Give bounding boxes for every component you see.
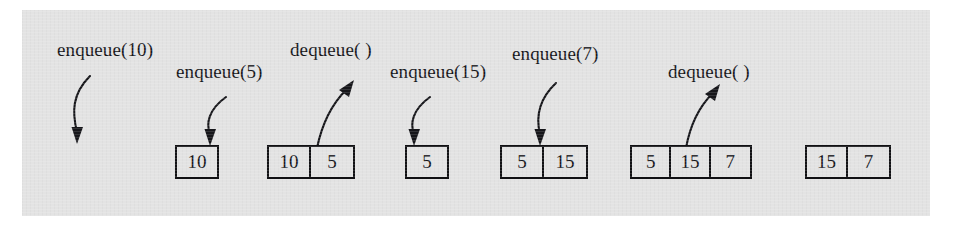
arrow-enqueue-15	[404, 94, 460, 152]
queue-state-3: 5	[405, 145, 449, 179]
queue-cell: 5	[311, 147, 353, 177]
queue-cell: 10	[269, 147, 311, 177]
arrow-enqueue-7	[528, 80, 584, 152]
queue-cell: 5	[632, 147, 671, 177]
queue-diagram-panel: enqueue(10) enqueue(5) dequeue( ) enqueu…	[22, 10, 930, 216]
queue-cell: 15	[671, 147, 710, 177]
queue-state-2: 10 5	[267, 145, 355, 179]
queue-cell: 15	[807, 147, 848, 177]
operation-label-enqueue-5: enqueue(5)	[176, 62, 262, 81]
operation-label-enqueue-10: enqueue(10)	[57, 40, 153, 59]
arrow-dequeue-2	[670, 70, 740, 152]
queue-state-4: 5 15	[500, 145, 588, 179]
arrow-enqueue-10	[62, 72, 132, 150]
operation-label-enqueue-15: enqueue(15)	[390, 62, 486, 81]
queue-cell: 7	[848, 147, 889, 177]
operation-label-dequeue-1: dequeue( )	[290, 40, 372, 59]
queue-state-6: 15 7	[805, 145, 891, 179]
queue-cell: 5	[502, 147, 544, 177]
operation-label-enqueue-7: enqueue(7)	[512, 44, 598, 63]
queue-cell: 7	[711, 147, 750, 177]
arrow-dequeue-1	[300, 62, 370, 152]
queue-state-1: 10	[175, 145, 219, 179]
queue-cell: 5	[407, 147, 447, 177]
queue-cell: 15	[544, 147, 586, 177]
arrow-enqueue-5	[200, 94, 256, 152]
queue-state-5: 5 15 7	[630, 145, 752, 179]
queue-cell: 10	[177, 147, 217, 177]
